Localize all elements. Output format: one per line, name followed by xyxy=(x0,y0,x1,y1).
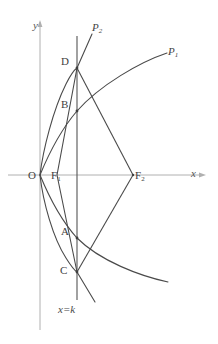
x-axis-label: x xyxy=(191,168,196,179)
point-markers xyxy=(76,67,135,274)
curve-label-P1: P1 xyxy=(168,46,178,57)
geometry-figure: y x O D B A C F1 F2 P1 P2 x=k xyxy=(0,0,218,344)
vertical-line-equation-label: x=k xyxy=(58,304,75,315)
y-axis-arrowhead xyxy=(38,20,43,27)
curve-label-P2-sub: 2 xyxy=(99,27,103,35)
point-marker-F2 xyxy=(132,174,134,176)
parabola-p2-lower xyxy=(40,175,77,272)
point-label-origin: O xyxy=(28,170,36,181)
ray-to-p2-label xyxy=(77,34,92,68)
point-marker-D xyxy=(76,67,79,70)
point-marker-A xyxy=(76,237,79,240)
y-axis-label: y xyxy=(33,20,38,31)
parabola-p2-upper xyxy=(40,68,77,175)
point-label-A: A xyxy=(61,226,69,237)
point-label-C: C xyxy=(60,265,67,276)
point-label-D: D xyxy=(61,56,69,67)
point-marker-B xyxy=(76,110,79,113)
curve-label-P2-text: P xyxy=(92,21,99,33)
point-label-F1-sub: 1 xyxy=(57,175,61,183)
ray-below-c xyxy=(77,272,95,302)
curve-label-P2: P2 xyxy=(92,22,102,33)
point-label-F2: F2 xyxy=(135,170,145,181)
point-marker-C xyxy=(76,271,79,274)
point-label-F2-sub: 2 xyxy=(141,175,145,183)
parabola-p1-upper xyxy=(40,53,167,175)
point-label-B: B xyxy=(61,99,68,110)
point-label-F1: F1 xyxy=(51,170,61,181)
segment-d-f2 xyxy=(77,68,133,175)
segment-c-f2 xyxy=(77,175,133,272)
x-axis-arrowhead xyxy=(199,173,206,178)
curve-label-P1-sub: 1 xyxy=(175,51,179,59)
axes-group xyxy=(8,20,206,330)
curve-label-P1-text: P xyxy=(168,45,175,57)
